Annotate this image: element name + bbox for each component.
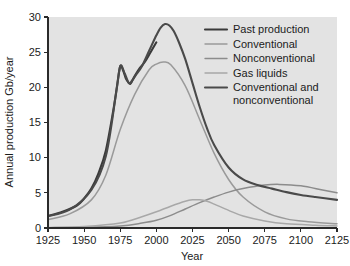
y-tick-label-25: 25 xyxy=(29,46,41,58)
x-axis-title: Year xyxy=(181,250,204,262)
x-tick-label-2100: 2100 xyxy=(289,234,313,246)
x-tick-label-2125: 2125 xyxy=(325,234,349,246)
legend-label-conventional-and-line2: nonconventional xyxy=(233,94,313,106)
y-tick-label-15: 15 xyxy=(29,116,41,128)
legend-label-conventional: Conventional xyxy=(233,38,297,50)
y-tick-label-10: 10 xyxy=(29,151,41,163)
y-tick-label-20: 20 xyxy=(29,81,41,93)
x-axis-ticks: 192519501975200020252050207521002125 xyxy=(36,228,349,246)
x-tick-label-2075: 2075 xyxy=(253,234,277,246)
chart-figure: 051015202530 192519501975200020252050207… xyxy=(0,0,350,266)
x-tick-label-1925: 1925 xyxy=(36,234,60,246)
x-tick-label-2000: 2000 xyxy=(144,234,168,246)
y-axis-title: Annual production Gb/year xyxy=(3,56,15,187)
x-tick-label-2025: 2025 xyxy=(180,234,204,246)
legend-label-nonconventional: Nonconventional xyxy=(233,52,315,64)
production-line-chart: 051015202530 192519501975200020252050207… xyxy=(0,0,350,266)
x-tick-label-2050: 2050 xyxy=(216,234,240,246)
legend-label-conventional-and: Conventional and xyxy=(233,81,319,93)
legend-label-past-production: Past production xyxy=(233,23,309,35)
y-tick-label-30: 30 xyxy=(29,11,41,23)
y-tick-label-0: 0 xyxy=(35,222,41,234)
y-axis-ticks: 051015202530 xyxy=(29,11,48,234)
legend-label-gas-liquids: Gas liquids xyxy=(233,67,288,79)
x-tick-label-1975: 1975 xyxy=(108,234,132,246)
y-tick-label-5: 5 xyxy=(35,187,41,199)
x-tick-label-1950: 1950 xyxy=(72,234,96,246)
